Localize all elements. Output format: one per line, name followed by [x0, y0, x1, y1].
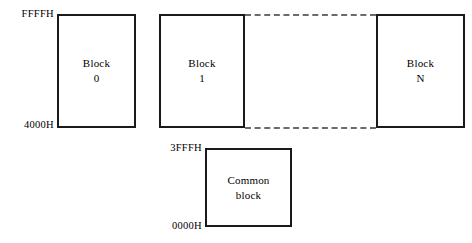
- memory-block-n: Block N: [376, 14, 465, 128]
- memory-block-1-index: 1: [199, 71, 205, 86]
- memory-block-1-title: Block: [188, 56, 215, 71]
- memory-block-0-title: Block: [83, 56, 110, 71]
- memory-block-n-title: Block: [407, 56, 434, 71]
- common-memory-block: Common block: [205, 148, 292, 227]
- memory-block-n-index: N: [416, 71, 424, 86]
- dashed-continuation-line-top: [245, 14, 376, 16]
- common-block-label-line2: block: [236, 188, 261, 203]
- address-label-3fffh: 3FFFH: [156, 142, 202, 153]
- memory-block-diagram: FFFFH 4000H Block 0 Block 1 Block N 3FFF…: [0, 0, 472, 243]
- dashed-continuation-line-bottom: [245, 127, 376, 129]
- memory-block-1: Block 1: [159, 14, 245, 128]
- memory-block-0-index: 0: [94, 71, 100, 86]
- address-label-0000h: 0000H: [156, 220, 202, 231]
- address-label-ffffh: FFFFH: [6, 8, 54, 19]
- address-label-4000h: 4000H: [6, 119, 54, 130]
- memory-block-0: Block 0: [57, 14, 136, 128]
- common-block-label-line1: Common: [227, 173, 269, 188]
